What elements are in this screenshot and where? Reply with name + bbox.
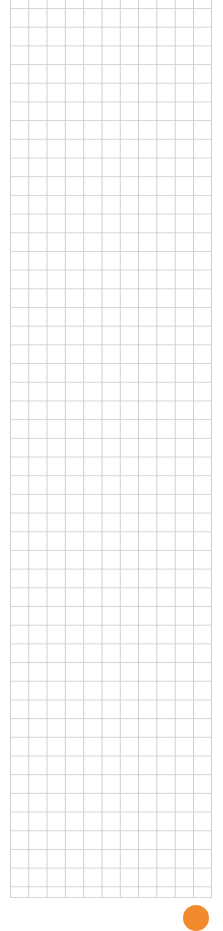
grid-canvas[interactable] <box>10 0 212 898</box>
floating-action-button[interactable] <box>183 905 209 931</box>
